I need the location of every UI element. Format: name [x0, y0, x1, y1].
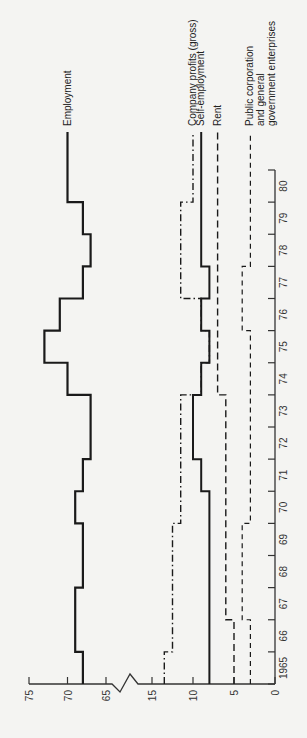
year-tick-label: 75 — [278, 341, 289, 353]
axes — [29, 170, 275, 692]
year-tick-label: 68 — [278, 566, 289, 578]
year-tick-label: 76 — [278, 309, 289, 321]
year-tick-label: 74 — [278, 373, 289, 385]
value-tick-label: 75 — [24, 690, 35, 702]
value-tick-label: 5 — [229, 690, 240, 696]
value-tick-label: 10 — [188, 690, 199, 702]
legend-label: Self-employment — [195, 51, 206, 126]
legend-label: Public corporation — [244, 46, 255, 126]
year-tick-label: 66 — [278, 630, 289, 642]
value-tick-label: 65 — [101, 690, 112, 702]
year-tick-label: 69 — [278, 533, 289, 545]
year-tick-label: 77 — [278, 276, 289, 288]
series-lines — [44, 132, 250, 684]
series-line — [164, 132, 209, 684]
year-tick-label: 78 — [278, 244, 289, 256]
legend-label: government enterprises — [266, 21, 277, 126]
series-line — [44, 132, 90, 684]
series-line — [218, 132, 234, 684]
legend-label: Rent — [212, 105, 223, 126]
value-tick-label: 15 — [147, 690, 158, 702]
year-tick-label: 80 — [278, 180, 289, 192]
step-chart: 0510156570751965666768697071727374757677… — [0, 0, 307, 738]
year-tick-label: 71 — [278, 469, 289, 481]
legend-label: Employment — [62, 70, 73, 126]
year-tick-label: 73 — [278, 405, 289, 417]
series-line — [242, 132, 250, 684]
value-tick-label: 70 — [63, 690, 74, 702]
year-tick-label: 79 — [278, 212, 289, 224]
series-line — [193, 132, 209, 684]
year-tick-label: 72 — [278, 437, 289, 449]
year-tick-label: 70 — [278, 501, 289, 513]
legend-label: and general — [255, 73, 266, 126]
tick-labels: 0510156570751965666768697071727374757677… — [24, 180, 289, 701]
year-tick-label: 1965 — [278, 656, 289, 679]
year-tick-label: 67 — [278, 598, 289, 610]
value-tick-label: 0 — [270, 690, 281, 696]
legend: EmploymentCompany profits (gross)Self-em… — [62, 19, 278, 126]
